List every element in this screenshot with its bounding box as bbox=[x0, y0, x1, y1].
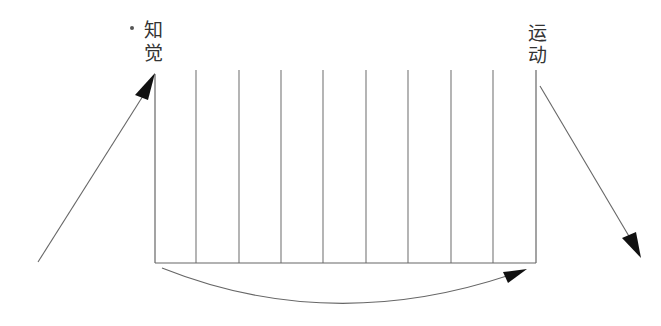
motion-label-char-1: 运 bbox=[526, 22, 548, 44]
column-dividers bbox=[196, 70, 493, 263]
input-arrowhead-icon bbox=[135, 73, 155, 100]
input-arrow-shaft bbox=[38, 88, 148, 262]
perception-action-diagram: 知 觉 运 动 bbox=[0, 0, 661, 326]
output-arrow-shaft bbox=[540, 86, 633, 243]
perception-label-char-2: 觉 bbox=[142, 42, 164, 64]
diagram-canvas bbox=[0, 0, 661, 326]
ink-speck bbox=[130, 26, 134, 30]
bottom-curved-arrowhead-icon bbox=[503, 269, 527, 283]
motion-label-char-2: 动 bbox=[526, 44, 548, 66]
output-arrowhead-icon bbox=[622, 232, 641, 258]
perception-label-char-1: 知 bbox=[142, 19, 164, 41]
bottom-curved-arrow-shaft bbox=[162, 268, 510, 303]
